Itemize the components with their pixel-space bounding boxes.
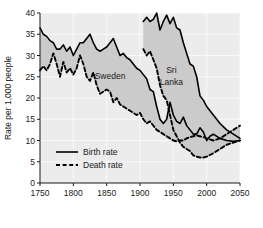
y-axis-ticks: 0510152025303540 xyxy=(26,8,40,188)
annotation-lanka: Lanka xyxy=(160,77,183,87)
y-tick-label: 35 xyxy=(26,29,36,39)
annotation-sri: Sri xyxy=(166,65,177,75)
legend-label-birth-rate: Birth rate xyxy=(83,147,118,157)
y-tick-label: 30 xyxy=(26,51,36,61)
x-tick-label: 2000 xyxy=(197,188,216,198)
y-tick-label: 15 xyxy=(26,114,36,124)
chart-svg: 1750180018501900195020002050 05101520253… xyxy=(0,0,263,228)
y-tick-label: 25 xyxy=(26,72,36,82)
x-tick-label: 2050 xyxy=(231,188,250,198)
x-tick-label: 1750 xyxy=(31,188,50,198)
y-axis-label-text: Rate per 1,000 people xyxy=(3,56,13,140)
x-tick-label: 1850 xyxy=(97,188,116,198)
y-axis-label: Rate per 1,000 people xyxy=(3,56,13,140)
legend-label-death-rate: Death rate xyxy=(83,160,123,170)
annotation-sweden: Sweden xyxy=(95,71,126,81)
y-tick-label: 20 xyxy=(26,93,36,103)
y-tick-label: 40 xyxy=(26,8,36,18)
x-tick-label: 1950 xyxy=(164,188,183,198)
y-tick-label: 5 xyxy=(30,157,35,167)
y-tick-label: 0 xyxy=(30,178,35,188)
y-tick-label: 10 xyxy=(26,136,36,146)
x-axis-ticks: 1750180018501900195020002050 xyxy=(31,183,250,198)
x-tick-label: 1900 xyxy=(131,188,150,198)
demographic-transition-chart: 1750180018501900195020002050 05101520253… xyxy=(0,0,263,228)
x-tick-label: 1800 xyxy=(64,188,83,198)
